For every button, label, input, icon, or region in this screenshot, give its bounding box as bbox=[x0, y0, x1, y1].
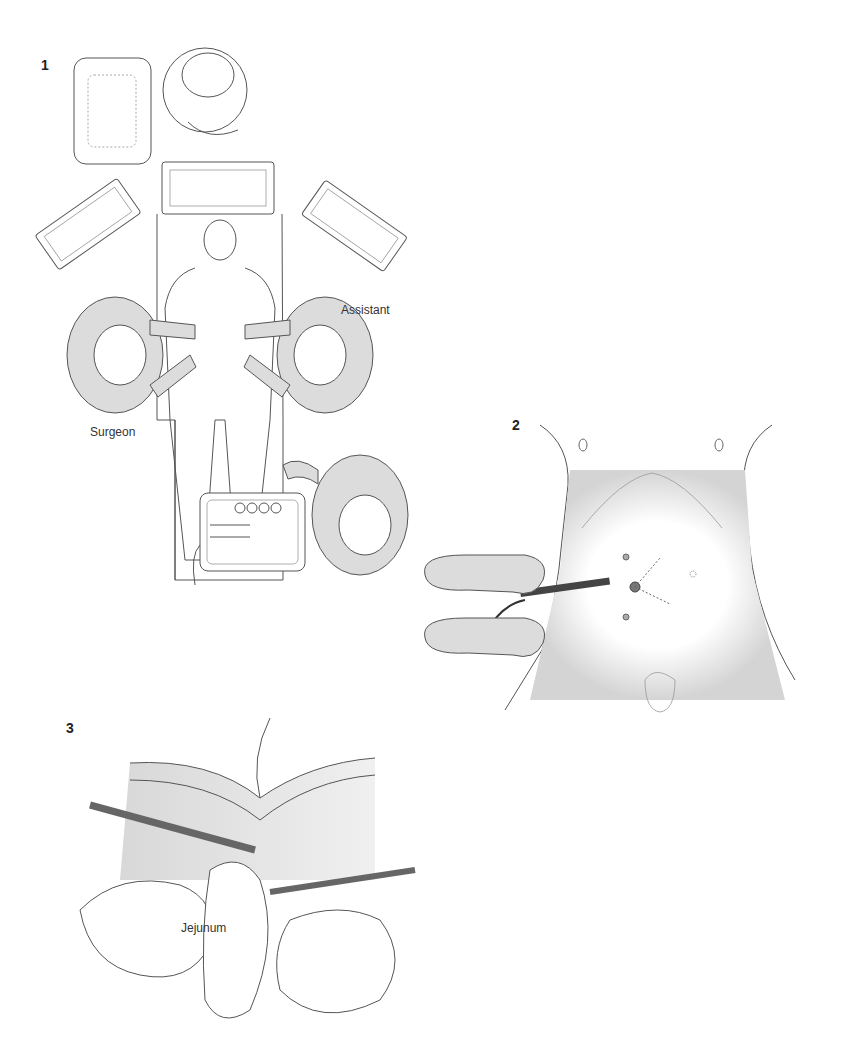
figure-1-operating-room-layout: 1 Assis bbox=[0, 0, 440, 600]
label-jejunum: Jejunum bbox=[181, 921, 226, 935]
label-surgeon: Surgeon bbox=[90, 425, 135, 439]
label-assistant: Assistant bbox=[341, 303, 390, 317]
or-layout-illustration bbox=[0, 0, 440, 600]
figure-3-jejunum-retraction: 3 Jejunum bbox=[60, 660, 480, 1060]
jejunum-illustration bbox=[60, 660, 480, 1060]
